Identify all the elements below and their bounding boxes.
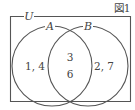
region-b-only: 2, 7 <box>94 60 114 72</box>
region-a-and-b-1: 3 <box>67 51 74 63</box>
figure-caption: 図1 <box>114 2 131 14</box>
set-b-label: B <box>83 20 92 33</box>
venn-diagram: U A B 図1 1, 4 3 6 2, 7 <box>0 0 135 110</box>
universe-label: U <box>24 10 34 23</box>
set-a-label: A <box>45 20 54 33</box>
region-a-only: 1, 4 <box>25 60 45 72</box>
region-a-and-b-2: 6 <box>67 68 74 80</box>
